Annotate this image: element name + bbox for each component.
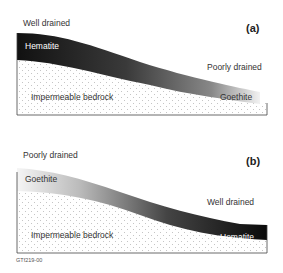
bedrock-label-a: Impermeable bedrock: [31, 92, 113, 102]
right-drainage-label-b: Well drained: [207, 197, 254, 207]
top-drainage-label-b: Poorly drained: [23, 150, 78, 160]
layer-left-label-b: Goethite: [25, 174, 57, 184]
top-drainage-label-a: Well drained: [23, 18, 70, 28]
layer-right-label-b: Hematite: [220, 232, 254, 242]
panel-id-a: (a): [246, 22, 259, 34]
panel-id-b: (b): [246, 155, 260, 167]
layer-left-label-a: Hematite: [25, 41, 59, 51]
right-drainage-label-a: Poorly drained: [207, 62, 262, 72]
bedrock-label-b: Impermeable bedrock: [31, 230, 113, 240]
figure-code: GTf219-00: [16, 257, 42, 263]
layer-right-label-a: Goethite: [220, 92, 252, 102]
